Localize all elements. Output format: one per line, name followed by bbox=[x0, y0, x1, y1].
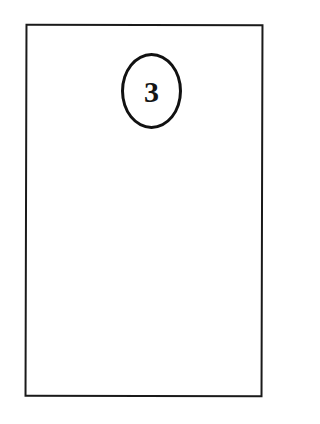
page-number-badge: 3 bbox=[121, 53, 182, 129]
page-number-label: 3 bbox=[144, 77, 159, 107]
